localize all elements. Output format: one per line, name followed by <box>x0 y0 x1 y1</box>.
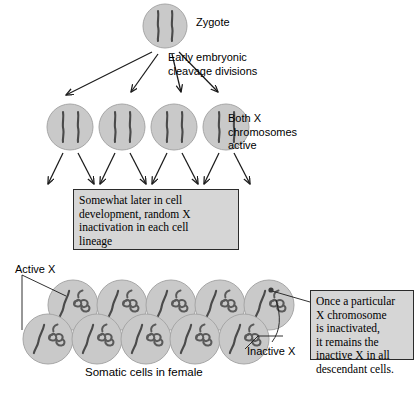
somatic-cell <box>121 314 171 364</box>
zygote-label: Zygote <box>196 16 230 30</box>
somatic-cell <box>170 314 220 364</box>
somatic-cell <box>72 314 122 364</box>
somatic-cells-caption: Somatic cells in female <box>85 366 203 380</box>
active-x-label: Active X <box>15 263 55 277</box>
blastomere-cell <box>151 104 197 150</box>
random-inactivation-callout: Somewhat later in cell development, rand… <box>73 189 239 250</box>
both-x-active-label: Both X chromosomes active <box>228 112 297 153</box>
somatic-cell <box>23 314 73 364</box>
zygote-cell <box>143 4 187 48</box>
blastomere-cell <box>99 104 145 150</box>
blastomere-cell <box>47 104 93 150</box>
inactivation-arrows <box>48 153 250 184</box>
cleavage-divisions-label: Early embryonic cleavage divisions <box>168 51 257 78</box>
blastomere-row <box>47 104 249 150</box>
inactive-x-label: Inactive X <box>247 345 295 359</box>
x-inactivation-diagram: Zygote Early embryonic cleavage division… <box>0 0 415 395</box>
somatic-row-bottom <box>23 314 269 364</box>
descendant-cells-callout: Once a particular X chromosome is inacti… <box>310 290 414 360</box>
